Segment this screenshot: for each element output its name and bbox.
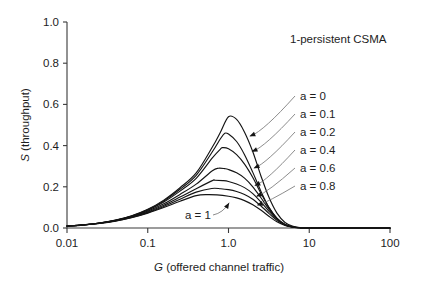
series-curve (67, 195, 390, 228)
series-label: a = 0.4 (300, 144, 336, 156)
x-axis-title: G (offered channel traffic) (154, 261, 284, 273)
series-label: a = 0.2 (300, 126, 336, 138)
leader-line (250, 96, 295, 136)
y-tick-label: 0.4 (43, 140, 60, 152)
leader-line (255, 150, 295, 186)
y-tick-label: 0.2 (43, 181, 59, 193)
series-label: a = 0.8 (300, 180, 336, 192)
x-axis-title-rest: (offered channel traffic) (163, 261, 284, 273)
chart-title: 1-persistent CSMA (290, 33, 387, 45)
series-curve (67, 148, 390, 228)
series-curves (67, 116, 390, 228)
y-axis-title: S (throughput) (19, 88, 31, 162)
series-label: a = 0 (300, 90, 326, 102)
x-axis-title-symbol: G (154, 261, 163, 273)
throughput-vs-offered-traffic-chart: 0.010.11.010100 0.00.20.40.60.81.0 a = 0… (0, 0, 425, 289)
axis-lines (67, 22, 390, 228)
x-tick-label: 10 (303, 237, 316, 249)
series-curve (67, 133, 390, 228)
x-tick-label: 0.1 (140, 237, 156, 249)
leader-line (253, 114, 296, 152)
x-axis-ticks (67, 228, 390, 233)
chart-container: 0.010.11.010100 0.00.20.40.60.81.0 a = 0… (0, 0, 425, 289)
series-label: a = 0.1 (300, 108, 336, 120)
y-tick-label: 0.6 (43, 98, 59, 110)
series-curve (67, 116, 390, 228)
y-axis-ticks (63, 22, 67, 228)
leader-arrowhead (248, 132, 255, 139)
y-tick-label: 1.0 (43, 16, 59, 28)
y-tick-label: 0.0 (43, 222, 59, 234)
axes-group (63, 22, 390, 233)
leader-line (255, 132, 296, 168)
series-curve (67, 168, 390, 228)
x-axis-tick-labels: 0.010.11.010100 (56, 237, 400, 249)
x-tick-label: 100 (380, 237, 399, 249)
y-tick-label: 0.8 (43, 57, 59, 69)
series-curve (67, 188, 390, 228)
series-label: a = 1 (185, 209, 211, 221)
x-tick-label: 0.01 (56, 237, 78, 249)
series-label: a = 0.6 (300, 162, 336, 174)
x-tick-label: 1.0 (221, 237, 237, 249)
y-axis-tick-labels: 0.00.20.40.60.81.0 (43, 16, 60, 234)
y-axis-title-rest: (throughput) (19, 88, 31, 154)
